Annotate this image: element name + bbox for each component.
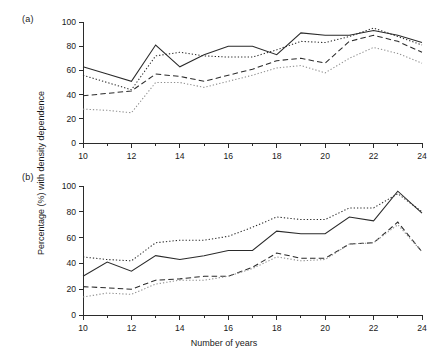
plot-canvas: 0204060801001012141618202224 02040608010… — [0, 0, 448, 360]
x-tick-label: 20 — [320, 323, 330, 333]
x-tick-label: 10 — [78, 323, 88, 333]
x-tick-label: 16 — [224, 151, 234, 161]
panel-a-plot: 0204060801001012141618202224 — [62, 17, 427, 161]
series-line-dotted-light — [83, 225, 422, 297]
x-tick-label: 18 — [272, 151, 282, 161]
x-tick-label: 10 — [78, 151, 88, 161]
x-tick-label: 12 — [127, 323, 137, 333]
panel-b-plot: 0204060801001012141618202224 — [62, 181, 427, 333]
x-tick-label: 24 — [417, 151, 427, 161]
series-line-dashed — [83, 35, 422, 95]
x-tick-label: 18 — [272, 323, 282, 333]
x-tick-label: 24 — [417, 323, 427, 333]
y-tick-label: 100 — [62, 181, 77, 191]
x-tick-label: 14 — [175, 151, 185, 161]
y-tick-label: 80 — [66, 207, 76, 217]
series-line-solid — [83, 30, 422, 81]
figure-container: (a) (b) Percentage (%) with density depe… — [0, 0, 448, 360]
y-tick-label: 40 — [66, 90, 76, 100]
y-tick-label: 60 — [66, 233, 76, 243]
y-tick-label: 40 — [66, 258, 76, 268]
panel-a-label: (a) — [22, 14, 34, 24]
x-axis-label: Number of years — [0, 338, 448, 348]
y-tick-label: 20 — [66, 284, 76, 294]
y-tick-label: 100 — [62, 17, 77, 27]
x-tick-label: 22 — [369, 151, 379, 161]
series-line-dotted-light — [83, 47, 422, 112]
series-line-dashed — [83, 222, 422, 289]
x-tick-label: 22 — [369, 323, 379, 333]
y-tick-label: 0 — [71, 138, 76, 148]
x-tick-label: 20 — [320, 151, 330, 161]
y-tick-label: 0 — [71, 310, 76, 320]
y-tick-label: 20 — [66, 114, 76, 124]
series-line-dotted-dark — [83, 28, 422, 90]
series-line-solid — [83, 191, 422, 276]
y-tick-label: 80 — [66, 41, 76, 51]
y-axis-label: Percentage (%) with density dependence — [36, 83, 46, 263]
panel-b-label: (b) — [22, 172, 34, 182]
x-tick-label: 12 — [127, 151, 137, 161]
x-tick-label: 16 — [224, 323, 234, 333]
x-tick-label: 14 — [175, 323, 185, 333]
y-tick-label: 60 — [66, 65, 76, 75]
